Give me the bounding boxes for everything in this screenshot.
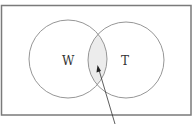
set-w-label: W: [62, 54, 75, 68]
venn-diagram: W T: [0, 0, 193, 126]
set-t-label: T: [121, 54, 129, 68]
